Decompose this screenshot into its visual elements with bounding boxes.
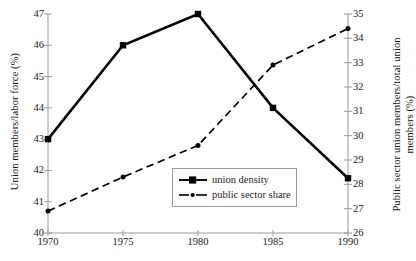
data-point-marker-dot <box>346 26 351 31</box>
data-point-marker-dot <box>46 209 51 214</box>
legend-item-public-sector-share: public sector share <box>178 187 291 202</box>
data-point-marker-dot <box>271 63 276 68</box>
data-point-marker-square <box>345 175 351 181</box>
legend-label-public-sector-share: public sector share <box>212 189 291 201</box>
data-point-marker-dot <box>196 143 201 148</box>
chart-legend: union density public sector share <box>172 168 297 207</box>
legend-item-union-density: union density <box>178 172 291 187</box>
data-point-marker-square <box>195 11 201 17</box>
legend-label-union-density: union density <box>212 174 269 186</box>
data-point-marker-square <box>270 105 276 111</box>
data-point-marker-dot <box>121 175 126 180</box>
series-line-union-density <box>48 14 348 178</box>
data-point-marker-square <box>120 42 126 48</box>
legend-swatch-solid-square-icon <box>178 174 208 186</box>
data-point-marker-square <box>45 136 51 142</box>
legend-swatch-dashed-dot-icon <box>178 189 208 201</box>
